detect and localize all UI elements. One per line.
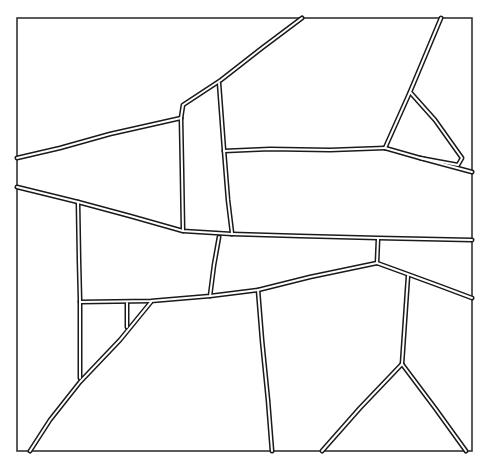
right-short-vertical-edge-core xyxy=(377,239,378,263)
bottom-right-fork-edge-core xyxy=(402,364,466,451)
lower-right-arc-edge-core xyxy=(377,263,472,298)
left-upper-wedge-edge-core xyxy=(17,118,181,158)
lower-middle-arc-edge xyxy=(80,263,377,302)
upper-left-diagonal-edge xyxy=(181,18,302,118)
lower-left-wedge-edge-core xyxy=(17,187,232,234)
center-lower-vertical-edge-core xyxy=(258,290,272,451)
partition-diagram xyxy=(0,0,491,462)
lower-left-diagonal-edge-core xyxy=(30,302,151,451)
right-diagonal-edge-core xyxy=(385,18,441,148)
left-vertical-b-edge-core xyxy=(219,83,232,233)
right-triangle-edge xyxy=(410,92,462,165)
edges-fill-layer xyxy=(17,18,472,451)
